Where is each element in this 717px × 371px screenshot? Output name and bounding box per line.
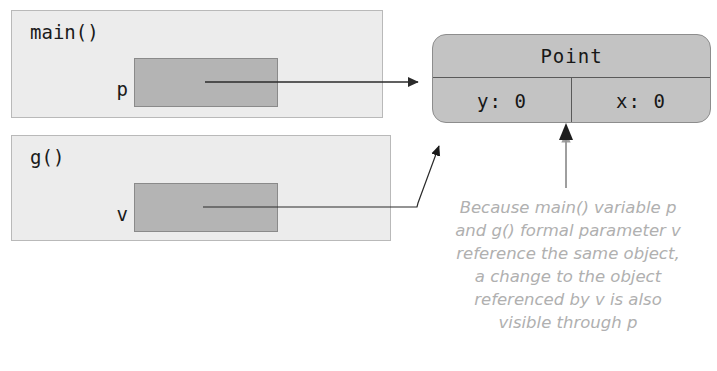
heap-object-point: Point y: 0 x: 0 bbox=[432, 34, 711, 123]
explanatory-caption: Because main() variable p and g() formal… bbox=[424, 196, 712, 334]
variable-slot-v bbox=[134, 183, 278, 232]
arrow-caption-to-point bbox=[559, 123, 573, 188]
variable-name-p: p bbox=[106, 78, 128, 100]
stack-frame-main-label: main() bbox=[30, 21, 99, 43]
point-object-fields: y: 0 x: 0 bbox=[433, 78, 710, 123]
point-object-header: Point bbox=[433, 35, 710, 78]
point-object-type-label: Point bbox=[540, 45, 602, 67]
diagram-canvas: main() p g() v Point y: 0 x: 0 bbox=[0, 0, 717, 371]
variable-name-v: v bbox=[106, 203, 128, 225]
stack-frame-g-label: g() bbox=[30, 146, 64, 168]
point-field-x: x: 0 bbox=[572, 78, 710, 123]
point-field-y: y: 0 bbox=[433, 78, 572, 123]
variable-slot-p bbox=[134, 58, 278, 107]
